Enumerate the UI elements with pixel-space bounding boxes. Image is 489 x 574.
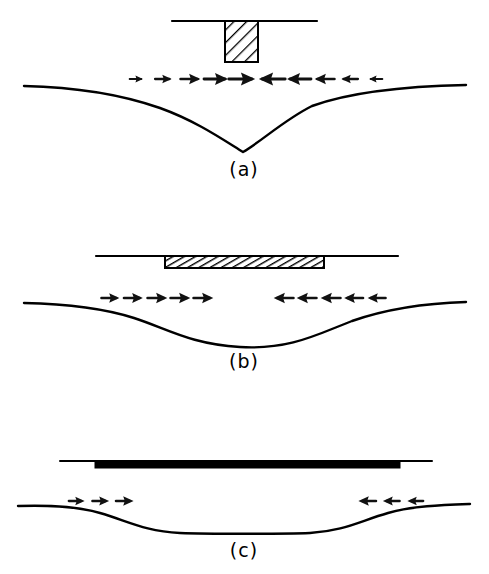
arrow-left — [259, 72, 285, 85]
arrow-right — [130, 76, 143, 83]
arrow-right — [124, 293, 143, 303]
panel-a: (a) — [24, 21, 466, 180]
panel-c-arrow-row — [69, 496, 423, 506]
arrow-right — [204, 73, 228, 85]
panel-c: (c) — [18, 461, 470, 561]
panel-c-label: (c) — [230, 539, 258, 561]
arrow-left — [297, 293, 317, 303]
panel-b-settlement-curve — [24, 302, 466, 347]
panel-b-label: (b) — [229, 350, 259, 372]
panel-c-flexible-load-bar — [95, 462, 400, 468]
arrow-left — [369, 76, 382, 83]
arrow-left — [274, 293, 294, 303]
arrow-right — [148, 293, 168, 303]
panel-b-semi-flexible-strip — [165, 256, 324, 268]
arrow-left — [344, 293, 363, 303]
arrow-left — [315, 74, 335, 84]
panel-b-arrow-row — [101, 293, 385, 303]
panel-a-settlement-curve — [24, 85, 466, 152]
figure-root: (a) — [0, 0, 489, 574]
arrow-right — [69, 497, 85, 506]
panel-b: (b) — [24, 256, 466, 372]
panel-c-settlement-curve — [18, 504, 470, 534]
arrow-right — [155, 75, 172, 84]
arrow-left — [287, 73, 311, 85]
arrow-right — [101, 293, 119, 302]
arrow-right — [92, 496, 109, 505]
arrow-right — [171, 293, 191, 303]
arrow-left — [358, 496, 376, 506]
arrow-right — [116, 496, 134, 506]
arrow-left — [383, 496, 400, 505]
arrow-right — [229, 72, 255, 85]
arrow-left — [368, 293, 386, 302]
panel-a-rigid-punch — [225, 21, 258, 62]
arrow-right — [194, 293, 214, 303]
arrow-right — [181, 74, 201, 84]
arrow-left — [321, 293, 341, 303]
settlement-profiles-figure: (a) — [0, 0, 489, 574]
arrow-left — [341, 75, 358, 84]
arrow-left — [407, 497, 423, 506]
panel-a-label: (a) — [229, 158, 258, 180]
panel-a-arrow-row — [130, 72, 383, 85]
